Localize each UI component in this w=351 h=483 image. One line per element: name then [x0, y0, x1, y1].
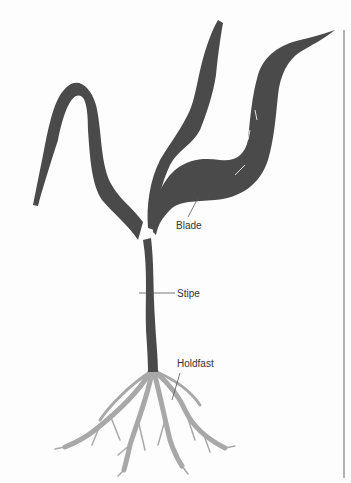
- holdfast-shape: [55, 372, 235, 476]
- kelp-illustration: [0, 0, 351, 483]
- kelp-diagram: Blade Stipe Holdfast: [0, 0, 351, 483]
- holdfast-label: Holdfast: [177, 358, 214, 369]
- stipe-label: Stipe: [177, 288, 200, 299]
- blade-label: Blade: [176, 220, 202, 231]
- stipe-shape: [143, 238, 158, 372]
- blade-shape: [33, 20, 335, 240]
